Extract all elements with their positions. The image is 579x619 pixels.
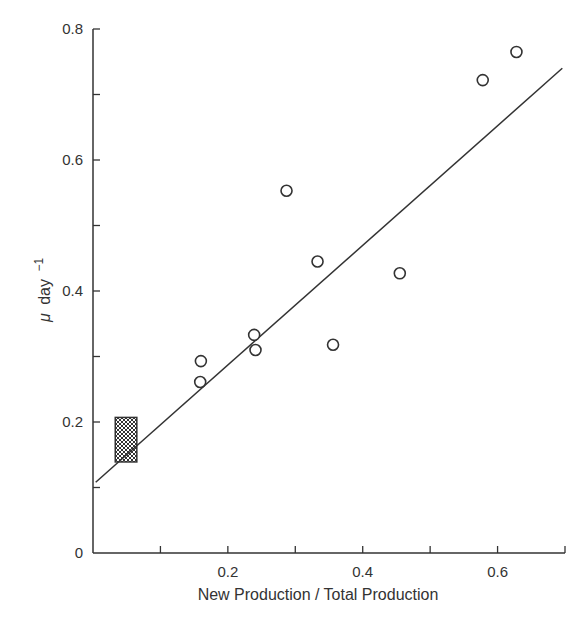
y-tick-label: 0.6: [62, 151, 83, 168]
x-tick-label: 0.6: [487, 563, 508, 580]
x-tick-label: 0.4: [352, 563, 373, 580]
data-point-circle-icon: [511, 46, 522, 57]
y-axis-unit: day: [36, 279, 53, 305]
data-point-circle-icon: [394, 268, 405, 279]
fit-line: [96, 68, 563, 482]
axes: [93, 29, 565, 553]
data-point-circle-icon: [195, 377, 206, 388]
y-axis-title: μ day −1: [32, 258, 53, 323]
data-point-circle-icon: [477, 75, 488, 86]
y-tick-label: 0.2: [62, 413, 83, 430]
data-point-circle-icon: [312, 256, 323, 267]
data-point-circle-icon: [250, 344, 261, 355]
y-tick-label: 0: [75, 544, 83, 561]
svg-text:μ day −1: μ day −1: [32, 258, 53, 323]
scatter-chart: 0.20.40.600.20.40.60.8 New Production / …: [0, 0, 579, 619]
data-point-circle-icon: [281, 185, 292, 196]
y-tick-label: 0.8: [62, 20, 83, 37]
data-points: [195, 46, 522, 387]
y-axis-exponent: −1: [32, 258, 46, 272]
regression-line: [96, 68, 563, 482]
x-axis-title: New Production / Total Production: [198, 586, 439, 603]
y-tick-label: 0.4: [62, 282, 83, 299]
x-tick-label: 0.2: [217, 563, 238, 580]
y-axis-symbol: μ: [36, 313, 53, 323]
data-point-circle-icon: [249, 329, 260, 340]
data-point-circle-icon: [195, 356, 206, 367]
tick-labels: 0.20.40.600.20.40.60.8: [62, 20, 508, 580]
axis-ticks: [93, 29, 565, 553]
data-point-circle-icon: [328, 339, 339, 350]
